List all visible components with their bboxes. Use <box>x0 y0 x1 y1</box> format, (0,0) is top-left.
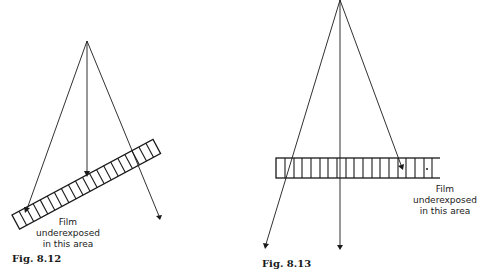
figure-8-13: Film underexposed in this area Fig. 8.13 <box>220 0 440 269</box>
figure-caption: Fig. 8.12 <box>12 253 61 264</box>
figure-8-12: Film underexposed in this area Fig. 8.12 <box>0 0 220 269</box>
arrowheads <box>24 171 162 220</box>
ray-left <box>266 0 340 244</box>
film-underexposed-label: Film underexposed in this area <box>28 217 108 250</box>
film-strip <box>12 139 161 229</box>
figure-8-13-diagram <box>220 0 440 269</box>
ray-right <box>87 41 159 216</box>
film-strip <box>276 158 440 178</box>
arrowhead-icon <box>263 243 269 249</box>
ray-right <box>340 0 401 165</box>
ray-left <box>27 41 87 209</box>
film-underexposed-label: Film underexposed in this area <box>405 184 481 217</box>
arrowhead-icon <box>337 245 343 250</box>
dot-icon <box>426 168 428 170</box>
arrowhead-icon <box>156 215 162 220</box>
figure-caption: Fig. 8.13 <box>262 258 311 269</box>
